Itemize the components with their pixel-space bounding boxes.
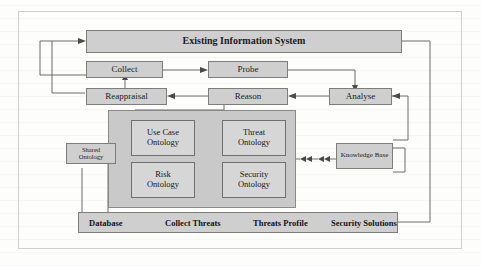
security-ontology-label: Security Ontology [238, 170, 270, 189]
shared-ontology-box[interactable]: Shared Ontology [66, 143, 116, 164]
collect-box[interactable]: Collect [86, 61, 163, 78]
threat-ontology-box[interactable]: Threat Ontology [222, 120, 286, 156]
existing-information-system-box[interactable]: Existing Information System [86, 30, 402, 53]
reappraisal-label: Reappraisal [105, 92, 147, 101]
use-case-ontology-line1: Use Case [147, 127, 179, 137]
threat-ontology-line2: Ontology [238, 137, 270, 147]
use-case-ontology-box[interactable]: Use Case Ontology [131, 120, 195, 156]
security-ontology-line2: Ontology [238, 179, 270, 189]
bottom-output-bar: Database Collect Threats Threats Profile… [78, 212, 398, 233]
bottom-item-database[interactable]: Database [89, 218, 123, 228]
risk-ontology-box[interactable]: Risk Ontology [131, 162, 195, 198]
diagram-canvas: Existing Information System Collect Prob… [0, 0, 481, 266]
bottom-item-security-solutions[interactable]: Security Solutions [331, 218, 397, 228]
security-ontology-line1: Security [240, 169, 268, 179]
reason-box[interactable]: Reason [208, 88, 288, 105]
analyse-box[interactable]: Analyse [329, 88, 392, 105]
probe-label: Probe [238, 65, 259, 74]
reason-label: Reason [235, 92, 262, 101]
probe-box[interactable]: Probe [208, 61, 288, 78]
risk-ontology-line1: Risk [155, 169, 171, 179]
shared-ontology-line2: Ontology [79, 153, 104, 160]
risk-ontology-line2: Ontology [147, 179, 179, 189]
shared-ontology-label: Shared Ontology [79, 147, 104, 161]
use-case-ontology-line2: Ontology [147, 137, 179, 147]
knowledge-base-box[interactable]: Knowledge Base [336, 143, 393, 169]
security-ontology-box[interactable]: Security Ontology [222, 162, 286, 198]
collect-label: Collect [112, 65, 138, 74]
use-case-ontology-label: Use Case Ontology [147, 128, 179, 147]
analyse-label: Analyse [346, 92, 376, 101]
reappraisal-box[interactable]: Reappraisal [86, 88, 167, 105]
existing-information-system-label: Existing Information System [183, 36, 306, 47]
risk-ontology-label: Risk Ontology [147, 170, 179, 189]
knowledge-base-label: Knowledge Base [341, 152, 389, 159]
bottom-item-collect-threats[interactable]: Collect Threats [165, 218, 221, 228]
bottom-item-threats-profile[interactable]: Threats Profile [253, 218, 308, 228]
threat-ontology-line1: Threat [243, 127, 265, 137]
threat-ontology-label: Threat Ontology [238, 128, 270, 147]
